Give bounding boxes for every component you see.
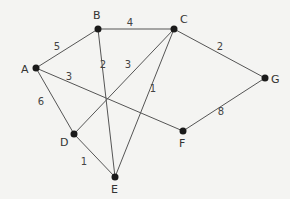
edge-weight-label: 5 [54, 41, 60, 52]
edge-f-g [183, 78, 265, 131]
edge-a-f [36, 68, 183, 131]
nodes [33, 26, 269, 181]
node-c [171, 26, 178, 33]
node-labels: ABCGDEF [21, 9, 280, 196]
node-a [33, 65, 40, 72]
edge-weight-label: 3 [125, 59, 131, 70]
edge-c-e [115, 29, 174, 177]
edges [36, 29, 265, 177]
node-f [180, 128, 187, 135]
edge-c-g [174, 29, 265, 78]
edge-weight-label: 1 [81, 156, 87, 167]
edge-weight-label: 8 [218, 106, 224, 117]
edge-weight-label: 1 [150, 83, 156, 94]
edge-d-c [74, 29, 174, 134]
edge-a-b [36, 29, 98, 68]
edge-weight-label: 3 [66, 71, 72, 82]
node-b [95, 26, 102, 33]
node-label: F [179, 137, 185, 150]
node-label: E [111, 183, 118, 196]
edge-b-e [98, 29, 115, 177]
edge-weight-label: 6 [38, 96, 44, 107]
edge-weight-label: 4 [127, 17, 133, 28]
node-d [71, 131, 78, 138]
node-label: A [21, 63, 29, 76]
node-label: B [93, 9, 101, 22]
node-g [262, 75, 269, 82]
node-label: G [271, 73, 280, 86]
node-label: C [180, 13, 188, 26]
node-e [112, 174, 119, 181]
edge-weight-label: 2 [100, 59, 106, 70]
node-label: D [60, 136, 68, 149]
edge-weight-label: 2 [217, 41, 223, 52]
weighted-graph-diagram: 5423623118 ABCGDEF [0, 0, 290, 199]
